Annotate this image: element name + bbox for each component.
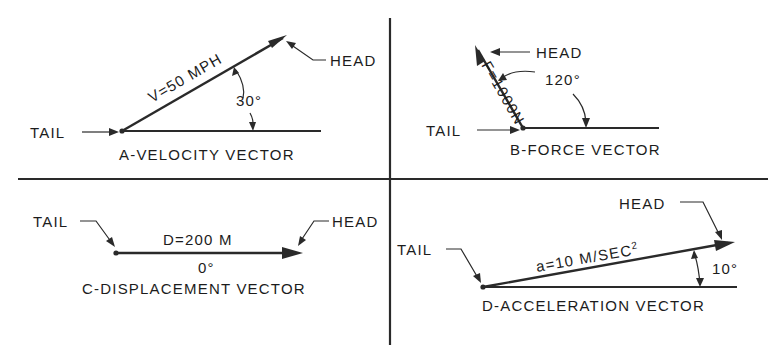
vector-label: D=200 M: [163, 231, 233, 248]
tail-label: TAIL: [33, 213, 68, 230]
panel-b-force: F=1000N HEAD 120° TAIL B-FORCE VECTOR: [426, 44, 661, 158]
angle-arc-lower: [573, 94, 586, 122]
panel-d-acceleration: a=10 M/SEC2 10° TAIL HEAD D-ACCELERATION…: [397, 195, 738, 314]
vector-label: a=10 M/SEC2: [534, 239, 640, 275]
tail-point: [480, 284, 485, 289]
tail-label: TAIL: [426, 122, 461, 139]
angle-label: 120°: [545, 71, 581, 88]
tail-pointer: [446, 249, 478, 278]
velocity-vector: [122, 38, 283, 131]
head-pointer: [290, 44, 326, 60]
angle-arc-upper: [502, 71, 535, 78]
panel-caption: C-DISPLACEMENT VECTOR: [82, 280, 306, 297]
tail-point: [119, 128, 124, 133]
vector-diagram: V=50 MPH 30° TAIL HEAD A-VELOCITY VECTOR…: [0, 0, 776, 356]
panel-c-displacement: D=200 M 0° TAIL HEAD C-DISPLACEMENT VECT…: [33, 213, 378, 297]
panel-caption: B-FORCE VECTOR: [510, 141, 661, 158]
panel-a-velocity: V=50 MPH 30° TAIL HEAD A-VELOCITY VECTOR: [30, 35, 376, 163]
panel-caption: A-VELOCITY VECTOR: [119, 146, 295, 163]
head-label: HEAD: [330, 52, 376, 69]
vector-label: F=1000N: [478, 58, 528, 128]
angle-label: 10°: [712, 260, 738, 277]
head-label: HEAD: [619, 195, 665, 212]
angle-label: 30°: [236, 92, 262, 109]
tail-pointer: [80, 221, 112, 243]
angle-label: 0°: [198, 259, 215, 276]
head-pointer: [300, 221, 329, 242]
panel-caption: D-ACCELERATION VECTOR: [482, 297, 705, 314]
arrowhead-icon: [714, 240, 735, 251]
arrowhead-icon: [282, 247, 303, 259]
tail-label: TAIL: [397, 241, 432, 258]
head-label: HEAD: [332, 213, 378, 230]
tail-point: [520, 125, 525, 130]
tail-point: [113, 250, 118, 255]
head-pointer: [680, 202, 720, 236]
tail-label: TAIL: [30, 124, 65, 141]
head-label: HEAD: [536, 44, 582, 61]
